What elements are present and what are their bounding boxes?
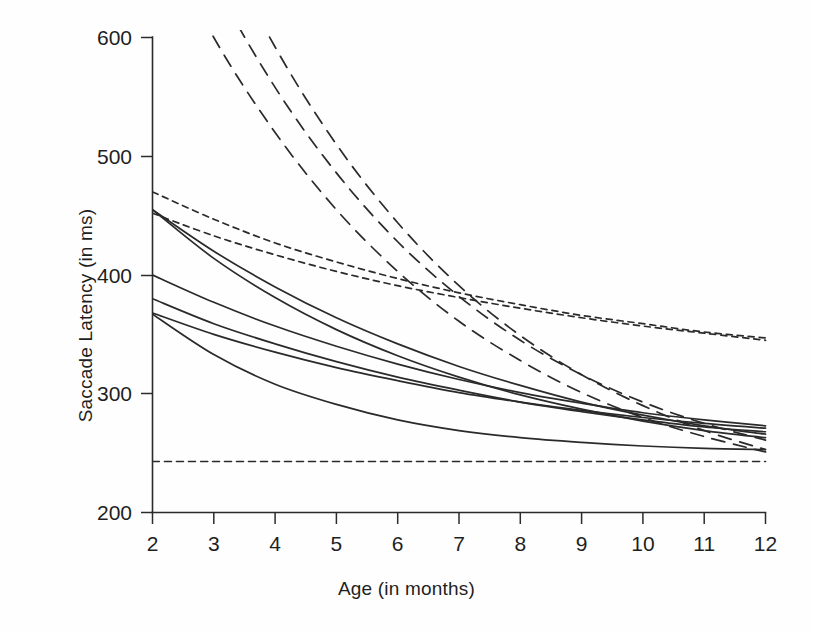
x-tick-label-10: 10 [631, 532, 654, 555]
chart-canvas: 600 500 400 300 200 2 3 4 5 6 7 8 9 10 1… [0, 0, 813, 631]
y-tick-label-400: 400 [97, 264, 132, 287]
x-axis-title: Age (in months) [338, 578, 475, 599]
figure-container: 600 500 400 300 200 2 3 4 5 6 7 8 9 10 1… [0, 0, 813, 631]
x-tick-label-2: 2 [147, 532, 159, 555]
x-tick-label-9: 9 [576, 532, 588, 555]
x-tick-label-11: 11 [693, 532, 715, 555]
x-tick-label-4: 4 [269, 532, 281, 555]
y-axis-ticks [141, 38, 153, 513]
x-tick-label-6: 6 [392, 532, 404, 555]
x-tick-label-3: 3 [208, 532, 220, 555]
axes-spines [153, 37, 766, 513]
data-curves-group [153, 0, 766, 461]
y-tick-label-200: 200 [97, 501, 132, 524]
curve-long-dash-1 [153, 0, 766, 440]
x-tick-label-5: 5 [331, 532, 343, 555]
x-tick-label-8: 8 [514, 532, 526, 555]
x-axis-ticks [153, 513, 766, 525]
x-tick-label-12: 12 [754, 532, 777, 555]
y-tick-label-300: 300 [97, 382, 132, 405]
curve-solid-4 [153, 299, 766, 432]
curve-long-dash-2 [153, 0, 766, 452]
curve-long-dash-3 [153, 0, 766, 450]
y-tick-label-600: 600 [97, 26, 132, 49]
y-tick-label-500: 500 [97, 145, 132, 168]
x-tick-label-7: 7 [453, 532, 465, 555]
x-axis-title-wrap: Age (in months) [0, 578, 813, 600]
x-tick-labels: 2 3 4 5 6 7 8 9 10 11 12 [147, 532, 778, 555]
curve-solid-2 [153, 210, 766, 438]
y-tick-labels: 600 500 400 300 200 [97, 26, 132, 524]
curve-short-dash-1 [153, 192, 766, 338]
